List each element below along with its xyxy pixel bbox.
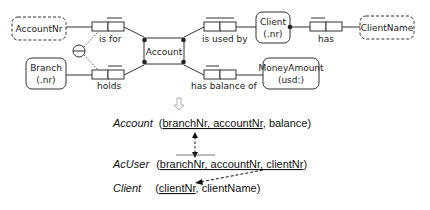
relation-client: Client (clientNr, clientName) [113, 182, 260, 194]
svg-text:Branch: Branch [30, 63, 62, 73]
primary-key: clientNr [159, 182, 197, 194]
entity-clientname[interactable]: ClientName [360, 16, 414, 39]
exclusion-constraint-icon [73, 45, 85, 57]
svg-text:ClientName: ClientName [361, 23, 414, 33]
svg-text:AccountNr: AccountNr [16, 24, 63, 34]
primary-key: branchNr, accountNr, clientNr [160, 158, 304, 170]
constraint-lines [84, 32, 98, 70]
svg-text:is used by: is used by [202, 34, 248, 44]
fact-type-holds[interactable]: holds [92, 66, 124, 91]
svg-text:Client: Client [260, 17, 287, 27]
mandatory-dot [181, 60, 186, 65]
svg-text:is for: is for [99, 34, 122, 44]
mandatory-dot [142, 60, 147, 65]
entity-client[interactable]: Client (.nr) [256, 12, 292, 43]
svg-text:Client (clientNr, client: Client (clientNr, clientName) [113, 182, 260, 194]
svg-text:has balance of: has balance of [191, 81, 258, 91]
mandatory-dot [142, 38, 147, 43]
svg-text:holds: holds [97, 81, 121, 91]
svg-text:AcUser (branchNr, accoun: AcUser (branchNr, accountNr, clientNr) [112, 158, 307, 170]
svg-text:Account: Account [146, 47, 183, 57]
svg-text:(.nr): (.nr) [36, 75, 55, 85]
svg-text:Account (branchNr, accou: Account (branchNr, accountNr, balance) [112, 117, 311, 129]
svg-text:has: has [318, 34, 334, 44]
entity-accountnr[interactable]: AccountNr [12, 17, 66, 40]
relation-acuser: AcUser (branchNr, accountNr, clientNr) [112, 158, 307, 170]
fact-type-has[interactable]: has [310, 18, 342, 44]
primary-key: branchNr, accountNr [162, 117, 263, 129]
relation-account: Account (branchNr, accountNr, balance) [112, 117, 311, 129]
orm-diagram: AccountNr Branch (.nr) is for holds Acco… [0, 0, 430, 210]
mandatory-dot [288, 25, 293, 30]
entity-branch[interactable]: Branch (.nr) [26, 58, 66, 89]
entity-moneyamount[interactable]: MoneyAmount (usd:) [258, 58, 324, 89]
mandatory-dot [181, 38, 186, 43]
fact-type-is-for[interactable]: is for [92, 18, 124, 44]
fact-type-has-balance-of[interactable]: has balance of [191, 66, 258, 91]
transform-arrow-icon [174, 98, 184, 110]
foreign-key-arrow [192, 132, 198, 158]
svg-text:(.nr): (.nr) [263, 29, 282, 39]
svg-text:(usd:): (usd:) [278, 75, 304, 85]
svg-text:MoneyAmount: MoneyAmount [258, 63, 324, 73]
fact-type-is-used-by[interactable]: is used by [202, 18, 248, 44]
entity-account[interactable]: Account [142, 38, 186, 65]
